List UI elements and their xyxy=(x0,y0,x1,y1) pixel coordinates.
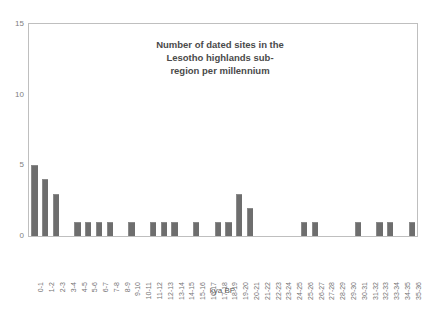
bar-slot xyxy=(29,24,40,236)
bar xyxy=(301,222,307,236)
bar-slot xyxy=(40,24,51,236)
bar xyxy=(107,222,113,236)
bar xyxy=(247,208,253,236)
y-axis: 051015 xyxy=(0,0,28,238)
bar-slot xyxy=(396,24,407,236)
x-axis-label-slot: 5-6 xyxy=(83,240,94,282)
bar xyxy=(376,222,382,236)
x-axis-label-slot: 22-23 xyxy=(266,240,277,282)
y-axis-tick-label: 5 xyxy=(20,161,24,169)
x-axis-label-slot: 13-14 xyxy=(169,240,180,282)
bar xyxy=(215,222,221,236)
bar-slot xyxy=(331,24,342,236)
bar-slot xyxy=(72,24,83,236)
bar xyxy=(355,222,361,236)
x-axis-title: kya BP xyxy=(0,286,445,296)
x-axis-label-slot: 34-35 xyxy=(396,240,407,282)
x-axis-label-slot: 19-20 xyxy=(234,240,245,282)
x-axis-label-slot: 10-11 xyxy=(137,240,148,282)
x-axis-label-slot: 16-17 xyxy=(202,240,213,282)
x-axis-label-slot: 17-18 xyxy=(212,240,223,282)
x-axis-label-slot: 35-36 xyxy=(406,240,417,282)
bar-slot xyxy=(51,24,62,236)
bar-slot xyxy=(320,24,331,236)
bar xyxy=(225,222,231,236)
bar-slot xyxy=(352,24,363,236)
x-axis-label-slot: 11-12 xyxy=(148,240,159,282)
bar-slot xyxy=(374,24,385,236)
bar xyxy=(387,222,393,236)
bar xyxy=(409,222,415,236)
chart-title-line: Lesotho highlands sub- xyxy=(125,51,315,64)
bar xyxy=(150,222,156,236)
bar-slot xyxy=(61,24,72,236)
bar-slot xyxy=(385,24,396,236)
x-axis: 0-11-22-33-44-55-66-77-88-99-1010-1111-1… xyxy=(29,240,417,282)
bar-slot xyxy=(406,24,417,236)
chart-title-line: region per millennium xyxy=(125,64,315,77)
x-axis-label-slot: 14-15 xyxy=(180,240,191,282)
y-axis-tick-label: 10 xyxy=(15,91,24,99)
x-axis-label-slot: 26-27 xyxy=(309,240,320,282)
x-axis-label-slot: 2-3 xyxy=(51,240,62,282)
x-axis-label-slot: 20-21 xyxy=(245,240,256,282)
bar xyxy=(171,222,177,236)
x-axis-label-slot: 1-2 xyxy=(40,240,51,282)
x-axis-label-slot: 32-33 xyxy=(374,240,385,282)
x-axis-label-slot: 24-25 xyxy=(288,240,299,282)
x-axis-label-slot: 27-28 xyxy=(320,240,331,282)
chart-title-line: Number of dated sites in the xyxy=(125,38,315,51)
bar xyxy=(312,222,318,236)
x-axis-label-slot: 4-5 xyxy=(72,240,83,282)
x-axis-label-slot: 8-9 xyxy=(115,240,126,282)
x-axis-label-slot: 31-32 xyxy=(363,240,374,282)
y-axis-tick-label: 15 xyxy=(15,20,24,28)
bar-slot xyxy=(363,24,374,236)
bar xyxy=(96,222,102,236)
x-axis-label-slot: 7-8 xyxy=(104,240,115,282)
x-axis-label-slot: 3-4 xyxy=(61,240,72,282)
x-axis-label-slot: 18-19 xyxy=(223,240,234,282)
x-axis-label-slot: 33-34 xyxy=(385,240,396,282)
bar xyxy=(161,222,167,236)
bar xyxy=(31,165,37,236)
x-axis-label-slot: 21-22 xyxy=(255,240,266,282)
bar xyxy=(42,179,48,236)
y-axis-tick-label: 0 xyxy=(20,232,24,240)
x-axis-label-slot: 12-13 xyxy=(158,240,169,282)
x-axis-label-slot: 29-30 xyxy=(342,240,353,282)
bar-slot xyxy=(83,24,94,236)
bar xyxy=(74,222,80,236)
x-axis-label-slot: 23-24 xyxy=(277,240,288,282)
x-axis-label-slot: 30-31 xyxy=(352,240,363,282)
x-axis-label-slot: 9-10 xyxy=(126,240,137,282)
bar xyxy=(193,222,199,236)
bar xyxy=(128,222,134,236)
x-axis-label-slot: 25-26 xyxy=(299,240,310,282)
x-axis-label-slot: 6-7 xyxy=(94,240,105,282)
x-axis-label-slot: 28-29 xyxy=(331,240,342,282)
bar-slot xyxy=(342,24,353,236)
bar xyxy=(85,222,91,236)
x-axis-label-slot: 15-16 xyxy=(191,240,202,282)
bar xyxy=(236,194,242,236)
bar-slot xyxy=(104,24,115,236)
x-axis-label-slot: 0-1 xyxy=(29,240,40,282)
bar-slot xyxy=(94,24,105,236)
bar xyxy=(53,194,59,236)
bar-chart: 051015 0-11-22-33-44-55-66-77-88-99-1010… xyxy=(0,0,445,309)
chart-title: Number of dated sites in theLesotho high… xyxy=(125,38,315,77)
